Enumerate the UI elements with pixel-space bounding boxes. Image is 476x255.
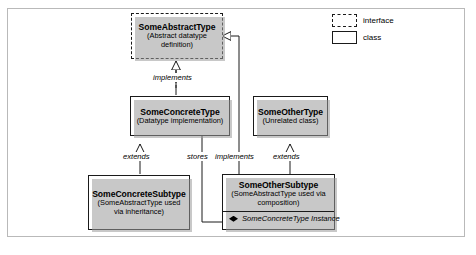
edge-label-extends-right: extends: [272, 152, 301, 161]
legend: interface class: [332, 14, 394, 48]
composition-diamond-icon: [229, 216, 238, 222]
legend-label: interface: [363, 16, 394, 25]
legend-item-interface: interface: [332, 14, 394, 27]
node-subtitle: (Datatype implementation): [137, 117, 224, 126]
attribute-row[interactable]: SomeConcreteType Instance: [223, 211, 334, 225]
edge-label-implements-top: implements: [152, 73, 193, 82]
legend-label: class: [363, 33, 381, 42]
node-subtitle: (SomeAbstractType used via inheritance): [92, 199, 186, 216]
node-some-other-subtype[interactable]: SomeOtherSubtype (SomeAbstractType used …: [222, 174, 335, 230]
node-subtitle: (Abstract datatype definition): [135, 32, 219, 49]
class-swatch-icon: [332, 31, 357, 44]
edge-label-implements-right: implements: [214, 152, 255, 161]
edge-label-stores: stores: [186, 152, 209, 161]
node-subtitle: (Unrelated class): [263, 117, 319, 126]
node-some-concrete-type[interactable]: SomeConcreteType (Datatype implementatio…: [130, 96, 230, 136]
node-some-concrete-subtype[interactable]: SomeConcreteSubtype (SomeAbstractType us…: [88, 175, 190, 230]
legend-item-class: class: [332, 31, 394, 44]
attribute-label: SomeConcreteType Instance: [242, 214, 340, 223]
node-subtitle: (SomeAbstractType used via composition): [226, 190, 331, 207]
node-some-other-type[interactable]: SomeOtherType (Unrelated class): [253, 96, 328, 136]
edge-label-extends-left: extends: [122, 152, 151, 161]
interface-swatch-icon: [332, 14, 357, 27]
node-some-abstract-type[interactable]: SomeAbstractType (Abstract datatype defi…: [131, 13, 223, 59]
uml-class-diagram: SomeAbstractType (Abstract datatype defi…: [0, 0, 476, 255]
